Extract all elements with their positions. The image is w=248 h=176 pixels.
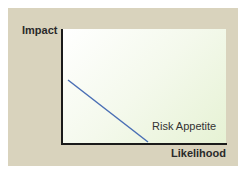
x-axis-label: Likelihood [171, 147, 226, 159]
y-axis [61, 29, 63, 145]
risk-appetite-label: Risk Appetite [152, 120, 216, 132]
y-axis-label: Impact [22, 24, 57, 36]
x-axis [61, 143, 227, 145]
